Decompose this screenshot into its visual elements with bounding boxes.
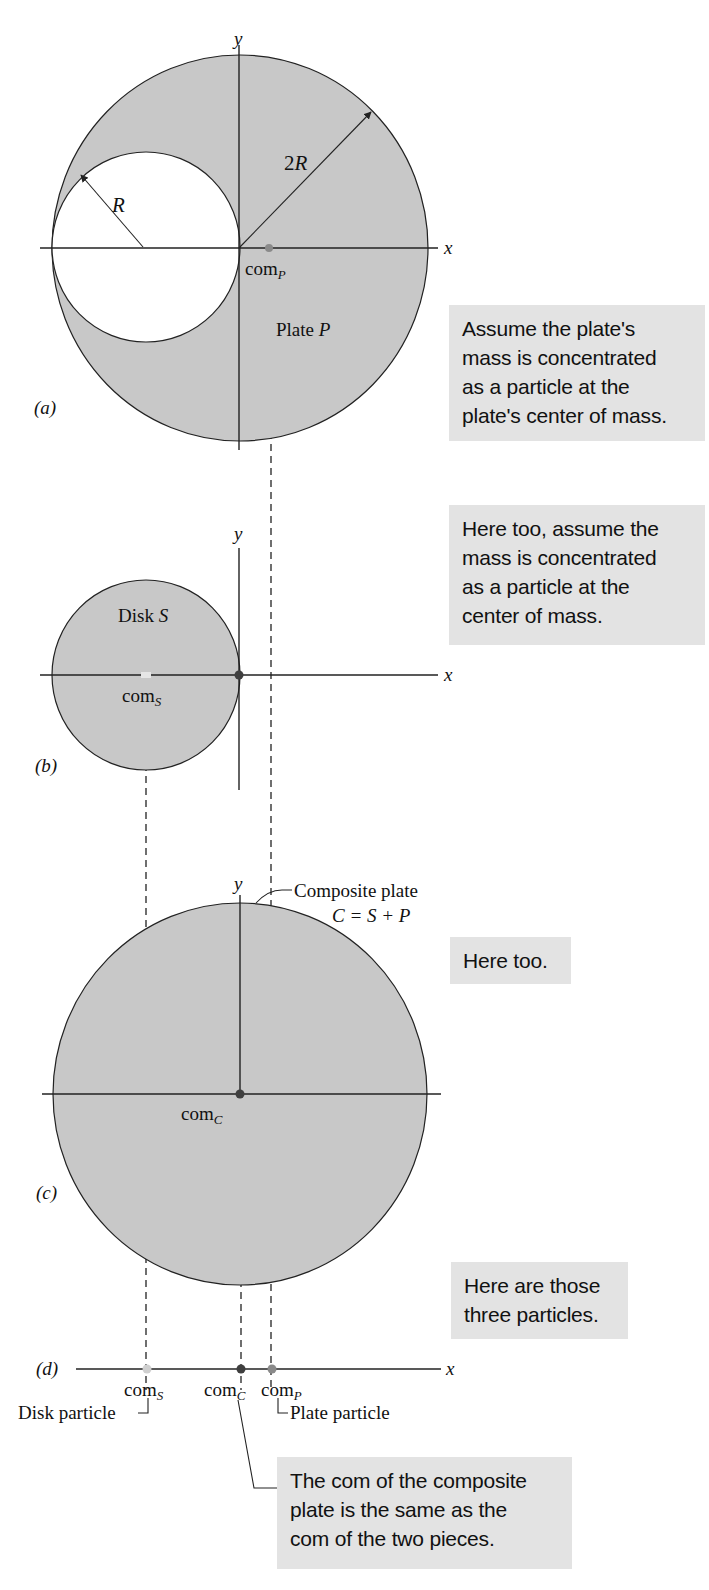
plate-p-label: Plate P	[276, 319, 331, 340]
y-axis-label-a: y	[232, 28, 243, 49]
com-c-leader	[238, 1400, 282, 1488]
panel-a	[40, 45, 438, 450]
callout-disk-mass: Here too, assume the mass is concentrate…	[449, 505, 705, 645]
com-p-label-d: comP	[261, 1379, 302, 1403]
panel-a-label: (a)	[34, 397, 56, 419]
panel-c	[42, 890, 441, 1285]
callout-composite-com: The com of the composite plate is the sa…	[277, 1457, 572, 1569]
callout-here-too: Here too.	[450, 937, 571, 984]
particle-c	[237, 1365, 246, 1374]
particle-s	[143, 1365, 152, 1374]
panel-b	[40, 548, 438, 790]
plate-hole-outline	[52, 152, 240, 342]
radius-r-label: R	[111, 193, 125, 217]
composite-equation: C = S + P	[332, 905, 411, 926]
panel-b-label: (b)	[35, 755, 57, 777]
plate-particle-label: Plate particle	[290, 1402, 390, 1423]
panel-d-label: (d)	[36, 1358, 58, 1380]
center-of-mass-figure: y x 2R R comP Plate P (a) y x Disk S com…	[0, 0, 709, 1590]
x-axis-label-d: x	[445, 1358, 455, 1379]
com-c-dot-c	[236, 1090, 245, 1099]
y-axis-label-c: y	[232, 873, 243, 894]
panel-c-label: (c)	[36, 1182, 57, 1204]
composite-plate-label: Composite plate	[294, 880, 418, 901]
y-axis-label-b: y	[232, 523, 243, 544]
disk-particle-label: Disk particle	[18, 1402, 116, 1423]
com-p-dot-a	[265, 244, 273, 252]
particle-p	[268, 1365, 277, 1374]
callout-plate-mass: Assume the plate's mass is concentrated …	[449, 305, 705, 441]
disk-s-label: Disk S	[118, 605, 169, 626]
x-axis-label-b: x	[443, 664, 453, 685]
x-axis-label-a: x	[443, 237, 453, 258]
origin-dot-b	[235, 671, 244, 680]
com-s-label-d: comS	[124, 1379, 164, 1403]
radius-2r-label: 2R	[284, 151, 308, 175]
plate-particle-leader	[278, 1398, 288, 1413]
com-c-label-d: comC	[204, 1379, 246, 1403]
composite-leader-line	[256, 890, 292, 903]
callout-three-particles: Here are those three particles.	[451, 1262, 628, 1339]
disk-particle-leader	[138, 1398, 148, 1413]
